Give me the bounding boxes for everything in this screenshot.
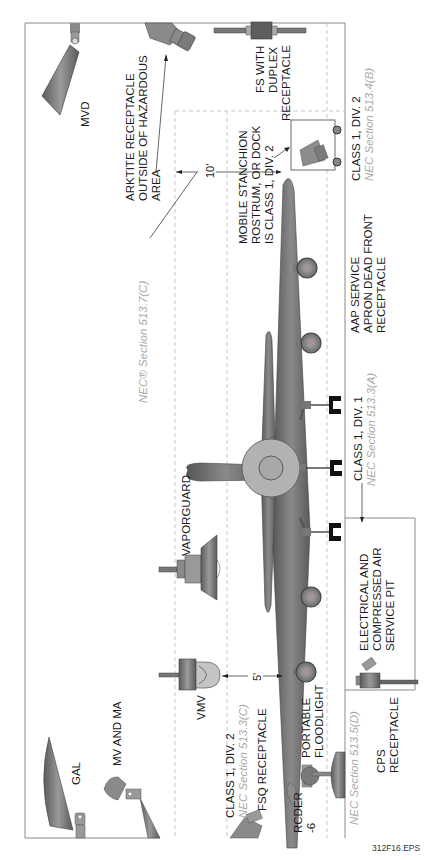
svg-text:ROSTRUM, OR DOCK: ROSTRUM, OR DOCK [250,125,262,244]
class1-div1-arrow [360,517,364,523]
svg-text:FS WITH: FS WITH [254,46,266,93]
label-mvd: MVD [79,101,91,127]
label-nec-513-4b: NEC Section 513.4(B) [363,68,375,181]
label-cps-receptacle: CPS RECEPTACLE [375,697,400,773]
label-vaporguard: VAPORGUARD [180,475,192,556]
label-class1-div1: CLASS 1, DIV. 1 [352,396,364,481]
svg-text:SERVICE PIT: SERVICE PIT [384,580,396,651]
svg-text:DUPLEX: DUPLEX [267,47,279,93]
gal-floodlight-icon [44,737,85,838]
label-arktite: ARKTITE RECEPTACLE OUTSIDE OF HAZARDOUS … [124,55,162,201]
mv-floodlight-icon [104,777,160,838]
svg-text:CPS: CPS [375,749,387,773]
diagram-canvas: 10' 5' [0,0,442,860]
svg-text:FLOODLIGHT: FLOODLIGHT [313,685,325,758]
floodlight-fixture-icon [42,23,80,115]
hangar-diagram: 10' 5' [0,0,442,860]
svg-text:AREA: AREA [150,169,162,201]
label-rcder: RCDER -6 [292,792,317,833]
arktite-leader [156,56,166,172]
svg-text:RECEPTACLE: RECEPTACLE [280,45,292,121]
svg-text:RECEPTACLE: RECEPTACLE [375,257,387,333]
svg-text:APRON DEAD FRONT: APRON DEAD FRONT [362,214,374,333]
label-electrical-pit: ELECTRICAL AND COMPRESSED AIR SERVICE PI… [358,547,396,651]
figure-id: 312F16.EPS [372,843,421,853]
label-mv-and-ma: MV AND MA [111,701,123,766]
label-gal: GAL [70,761,82,785]
svg-text:PORTABLE: PORTABLE [300,697,312,758]
svg-text:AAP SERVICE: AAP SERVICE [349,256,361,333]
label-vmv: VMV [195,695,207,720]
svg-text:-6: -6 [305,823,317,833]
receptacle-plug-icon [145,23,196,51]
svg-text:RCDER: RCDER [292,792,304,833]
label-nec-513-3c: NEC Section 513.3(C) [237,704,249,818]
svg-text:ELECTRICAL AND: ELECTRICAL AND [358,554,370,651]
label-aap-service: AAP SERVICE APRON DEAD FRONT RECEPTACLE [349,214,387,333]
stanchion-arrow [284,147,290,152]
svg-text:ARKTITE RECEPTACLE: ARKTITE RECEPTACLE [124,73,136,201]
svg-text:MOBILE STANCHION: MOBILE STANCHION [237,130,249,244]
label-fs-duplex: FS WITH DUPLEX RECEPTACLE [254,45,292,121]
dimension-5ft: 5' [222,673,283,681]
svg-text:COMPRESSED AIR: COMPRESSED AIR [371,547,383,651]
label-mobile-stanchion: MOBILE STANCHION ROSTRUM, OR DOCK IS CLA… [237,125,275,244]
vmv-fixture-icon [159,659,220,690]
label-portable-floodlight: PORTABLE FLOODLIGHT [300,685,325,758]
fs-box-icon [214,22,306,39]
label-nec-513-7c: NEC® Section 513.7(C) [137,281,149,403]
label-nec-513-5d: NEC Section 513.5(D) [348,711,360,825]
label-nec-513-3a: NEC Section 513.3(A) [365,373,377,486]
label-fsq-receptacle: FSQ RECEPTACLE [256,708,268,811]
svg-text:OUTSIDE OF HAZARDOUS: OUTSIDE OF HAZARDOUS [137,55,149,201]
aircraft-nose [259,456,283,480]
svg-text:IS CLASS 1, DIV. 2: IS CLASS 1, DIV. 2 [263,145,275,244]
svg-text:RECEPTACLE: RECEPTACLE [388,697,400,773]
label-class1-div2-right: CLASS 1, DIV. 2 [350,96,362,181]
arktite-arrow [164,54,168,61]
cps-receptacle-icon [356,657,418,688]
dimension-10ft-label: 10' [204,164,216,178]
label-class1-div2-left: CLASS 1, DIV. 2 [224,733,236,818]
dimension-5ft-label: 5' [251,673,263,681]
